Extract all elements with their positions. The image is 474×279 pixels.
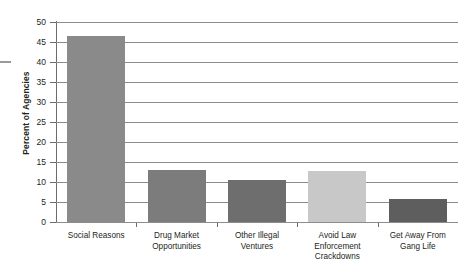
x-axis-label: Get Away FromGang Life bbox=[378, 231, 458, 252]
x-tick-mark bbox=[217, 223, 218, 227]
gridline bbox=[56, 22, 458, 23]
bar bbox=[228, 180, 286, 222]
y-tick-label: 25 bbox=[16, 118, 46, 126]
x-tick-mark bbox=[297, 223, 298, 227]
plot-area bbox=[56, 22, 458, 222]
y-tick-label: 15 bbox=[16, 158, 46, 166]
y-tick-label: 50 bbox=[16, 18, 46, 26]
y-tick-label: 30 bbox=[16, 98, 46, 106]
gridline bbox=[56, 222, 458, 223]
x-axis-label-line: Get Away From bbox=[378, 231, 458, 242]
y-tick-label: 5 bbox=[16, 198, 46, 206]
x-axis-label-line: Ventures bbox=[217, 242, 297, 253]
y-tick-label: 40 bbox=[16, 58, 46, 66]
x-axis-label: Avoid LawEnforcementCrackdowns bbox=[297, 231, 377, 263]
bar bbox=[67, 36, 125, 222]
y-tick-label: 20 bbox=[16, 138, 46, 146]
bar bbox=[308, 171, 366, 222]
x-tick-mark bbox=[136, 223, 137, 227]
x-axis-label-line: Opportunities bbox=[136, 242, 216, 253]
y-tick-label: 10 bbox=[16, 178, 46, 186]
x-axis-label-line: Other Illegal bbox=[217, 231, 297, 242]
x-axis-label-line: Enforcement bbox=[297, 242, 377, 253]
bar bbox=[389, 199, 447, 222]
x-axis-label-line: Social Reasons bbox=[56, 231, 136, 242]
x-tick-mark bbox=[378, 223, 379, 227]
x-axis-label-line: Avoid Law bbox=[297, 231, 377, 242]
x-axis-label: Other IllegalVentures bbox=[217, 231, 297, 252]
scan-artifact-mark bbox=[0, 61, 11, 63]
y-tick-label: 0 bbox=[16, 218, 46, 226]
x-axis-label-line: Drug Market bbox=[136, 231, 216, 242]
x-axis-label: Social Reasons bbox=[56, 231, 136, 242]
x-axis-label: Drug MarketOpportunities bbox=[136, 231, 216, 252]
x-axis-label-line: Crackdowns bbox=[297, 252, 377, 263]
x-axis-label-line: Gang Life bbox=[378, 242, 458, 253]
y-tick-label: 35 bbox=[16, 78, 46, 86]
bar bbox=[148, 170, 206, 222]
bar-chart-figure: Percent of Agencies 05101520253035404550… bbox=[0, 0, 474, 279]
y-tick-label: 45 bbox=[16, 38, 46, 46]
